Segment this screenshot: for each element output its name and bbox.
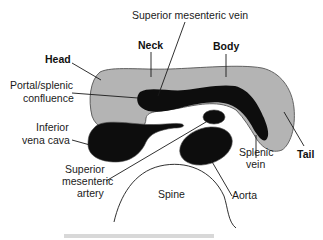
label-smv: Superior mesenteric vein: [132, 9, 248, 21]
label-sma-3: artery: [77, 187, 105, 199]
aorta-shape: [175, 121, 237, 172]
label-neck: Neck: [138, 39, 163, 51]
label-confluence-1: Portal/splenic: [10, 79, 73, 91]
label-ivc-2: vena cava: [22, 134, 70, 146]
label-confluence-2: confluence: [23, 92, 74, 104]
sma-shape: [203, 110, 225, 124]
caption-fragment: [64, 234, 214, 238]
label-head: Head: [45, 53, 71, 65]
label-splenic-2: vein: [246, 158, 265, 170]
head-leader: [72, 63, 101, 80]
ivc-shape: [88, 122, 184, 162]
label-aorta: Aorta: [232, 189, 257, 201]
label-tail: Tail: [297, 148, 314, 160]
pancreas-anatomy-diagram: Superior mesenteric vein Neck Body Head …: [0, 0, 323, 240]
label-spine: Spine: [158, 188, 185, 200]
label-splenic-1: Splenic: [239, 146, 273, 158]
label-sma-1: Superior: [65, 163, 105, 175]
label-ivc-1: Inferior: [36, 121, 69, 133]
label-body: Body: [213, 40, 239, 52]
label-sma-2: mesenteric: [62, 175, 113, 187]
ivc-leader: [72, 140, 90, 145]
